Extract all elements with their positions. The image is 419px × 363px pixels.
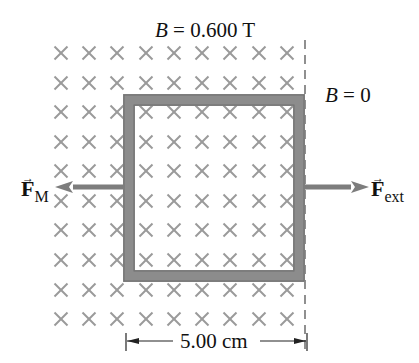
field-cross-icon <box>111 224 124 237</box>
magnetic-force-label: → FM <box>21 178 49 200</box>
field-cross-icon <box>83 224 96 237</box>
field-cross-icon <box>281 77 294 90</box>
force-subscript: M <box>34 188 48 205</box>
field-cross-icon <box>168 313 181 326</box>
field-cross-icon <box>196 106 209 119</box>
field-cross-icon <box>281 313 294 326</box>
field-cross-icon <box>140 254 153 267</box>
field-cross-icon <box>253 47 266 60</box>
field-cross-icon <box>140 136 153 149</box>
vector-arrow-icon: → <box>372 172 384 184</box>
field-cross-icon <box>83 77 96 90</box>
field-cross-icon <box>83 195 96 208</box>
field-cross-icon <box>224 47 237 60</box>
field-value: 0 <box>360 83 371 107</box>
field-cross-icon <box>168 47 181 60</box>
field-cross-icon <box>83 284 96 297</box>
field-cross-icon <box>168 77 181 90</box>
field-cross-icon <box>168 284 181 297</box>
field-cross-icon <box>111 77 124 90</box>
conducting-loop <box>124 95 304 281</box>
field-cross-icon <box>83 106 96 119</box>
field-cross-icon <box>224 195 237 208</box>
field-cross-icon <box>196 195 209 208</box>
field-cross-icon <box>111 284 124 297</box>
field-value: 0.600 T <box>190 18 255 42</box>
field-cross-icon <box>168 136 181 149</box>
field-cross-icon <box>140 195 153 208</box>
dimension-label: 5.00 cm <box>180 331 248 352</box>
field-cross-icon <box>281 165 294 178</box>
field-cross-icon <box>224 284 237 297</box>
field-cross-icon <box>111 313 124 326</box>
field-symbol: B <box>155 18 168 42</box>
field-cross-icon <box>253 165 266 178</box>
field-cross-icon <box>111 47 124 60</box>
field-cross-icon <box>253 136 266 149</box>
field-cross-icon <box>253 313 266 326</box>
field-cross-icon <box>196 284 209 297</box>
field-cross-icon <box>196 165 209 178</box>
field-cross-icon <box>111 195 124 208</box>
field-cross-icon <box>111 136 124 149</box>
field-cross-icon <box>224 77 237 90</box>
field-cross-icon <box>253 77 266 90</box>
field-cross-icon <box>196 47 209 60</box>
field-cross-icon <box>196 77 209 90</box>
field-cross-icon <box>168 254 181 267</box>
field-cross-icon <box>281 195 294 208</box>
magnetic-force-arrow <box>55 181 123 193</box>
field-cross-icon <box>168 165 181 178</box>
field-cross-icon <box>253 195 266 208</box>
field-cross-icon <box>55 195 68 208</box>
field-cross-icon <box>196 254 209 267</box>
field-cross-icon <box>224 224 237 237</box>
field-cross-icon <box>55 106 68 119</box>
field-cross-icon <box>55 47 68 60</box>
external-force-label: → Fext <box>371 178 404 200</box>
external-force-arrow <box>305 181 369 193</box>
field-cross-icon <box>281 284 294 297</box>
field-cross-icon <box>111 254 124 267</box>
field-cross-icon <box>140 47 153 60</box>
field-cross-icon <box>111 165 124 178</box>
field-cross-icon <box>83 47 96 60</box>
force-subscript: ext <box>384 188 404 205</box>
field-cross-icon <box>140 224 153 237</box>
field-cross-icon <box>253 224 266 237</box>
field-cross-icon <box>168 224 181 237</box>
equals-sign: = <box>173 18 185 42</box>
field-cross-icon <box>196 313 209 326</box>
field-cross-icon <box>224 106 237 119</box>
field-cross-icon <box>83 136 96 149</box>
field-cross-icon <box>55 254 68 267</box>
field-cross-icon <box>55 224 68 237</box>
field-cross-icon <box>140 165 153 178</box>
field-cross-icon <box>224 254 237 267</box>
field-cross-icon <box>281 136 294 149</box>
field-outside-label: B = 0 <box>325 85 371 106</box>
vector-arrow-icon: → <box>22 172 34 184</box>
field-cross-icon <box>83 254 96 267</box>
field-cross-icon <box>111 106 124 119</box>
field-cross-icon <box>140 77 153 90</box>
field-cross-icon <box>140 106 153 119</box>
field-cross-icon <box>196 136 209 149</box>
field-cross-icon <box>253 284 266 297</box>
field-cross-icon <box>281 224 294 237</box>
field-cross-icon <box>83 165 96 178</box>
field-cross-icon <box>253 254 266 267</box>
field-cross-icon <box>55 284 68 297</box>
field-cross-icon <box>168 106 181 119</box>
field-inside-label: B = 0.600 T <box>155 20 255 41</box>
field-cross-icon <box>196 224 209 237</box>
field-cross-icon <box>224 313 237 326</box>
field-cross-icon <box>55 136 68 149</box>
field-cross-icon <box>281 106 294 119</box>
field-cross-icon <box>281 47 294 60</box>
field-cross-icon <box>224 136 237 149</box>
field-cross-icon <box>281 254 294 267</box>
field-symbol: B <box>325 83 338 107</box>
equals-sign: = <box>343 83 355 107</box>
field-cross-icon <box>224 165 237 178</box>
